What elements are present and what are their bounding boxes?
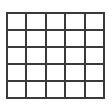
grid-figure (0, 0, 112, 110)
grid-cell[interactable] (26, 30, 45, 47)
grid-cell[interactable] (26, 64, 45, 81)
grid-cell[interactable] (46, 13, 65, 30)
grid-cell[interactable] (26, 13, 45, 30)
grid-cell[interactable] (7, 30, 26, 47)
grid-cell[interactable] (26, 81, 45, 98)
grid-cell[interactable] (65, 30, 84, 47)
grid-cell[interactable] (7, 64, 26, 81)
grid-cell[interactable] (7, 47, 26, 64)
grid-cell[interactable] (65, 47, 84, 64)
grid-table (6, 12, 105, 99)
grid-cell[interactable] (65, 64, 84, 81)
grid-cell[interactable] (46, 64, 65, 81)
grid-row (7, 64, 104, 81)
grid-cell[interactable] (85, 47, 104, 64)
grid-cell[interactable] (85, 64, 104, 81)
grid-cell[interactable] (7, 81, 26, 98)
grid-cell[interactable] (46, 47, 65, 64)
grid-row (7, 30, 104, 47)
grid-cell[interactable] (85, 13, 104, 30)
grid-cell[interactable] (7, 13, 26, 30)
grid-cell[interactable] (85, 81, 104, 98)
grid-row (7, 47, 104, 64)
grid-cell[interactable] (26, 47, 45, 64)
grid-cell[interactable] (85, 30, 104, 47)
grid-cell[interactable] (46, 81, 65, 98)
grid-cell[interactable] (46, 30, 65, 47)
grid-cell[interactable] (65, 81, 84, 98)
grid-row (7, 13, 104, 30)
grid-body (7, 13, 104, 98)
grid-row (7, 81, 104, 98)
grid-cell[interactable] (65, 13, 84, 30)
